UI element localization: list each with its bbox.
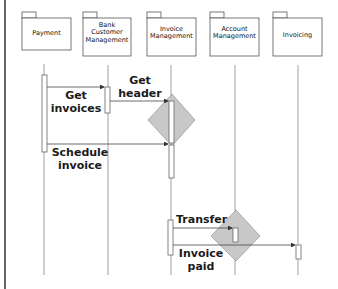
message-label-get-header: Getheader	[114, 74, 166, 100]
package-label-account-management: AccountManagement	[210, 26, 259, 41]
sequence-diagram	[0, 0, 338, 289]
package-label-payment: Payment	[22, 30, 71, 37]
message-label-get-invoices: Getinvoices	[50, 89, 102, 115]
message-label-transfer: Transfer	[176, 213, 226, 226]
message-label-invoice-paid: Invoicepaid	[178, 247, 224, 273]
package-label-bank: BankCustomerManagement	[83, 22, 131, 44]
package-label-invoice-management: InvoiceManagement	[147, 26, 196, 41]
package-label-invoicing: Invoicing	[273, 32, 322, 39]
message-label-schedule-invoice: Scheduleinvoice	[50, 146, 110, 172]
